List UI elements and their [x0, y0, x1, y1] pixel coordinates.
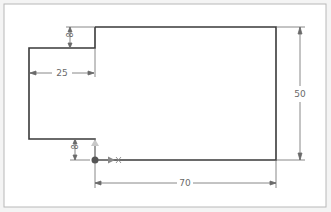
dimension-label-step-width[interactable]: 25 — [56, 68, 67, 78]
origin-point-icon[interactable] — [92, 157, 99, 164]
dimension-label-bottom-step[interactable]: 8 — [71, 144, 80, 149]
sheet-frame — [4, 4, 326, 207]
dimension-label-top-step[interactable]: 8 — [66, 32, 75, 37]
dimension-label-total-height[interactable]: 50 — [294, 89, 306, 99]
dimension-label-total-width[interactable]: 70 — [179, 178, 191, 188]
sketch-canvas[interactable]: 8 25 50 8 70 — [0, 0, 331, 212]
